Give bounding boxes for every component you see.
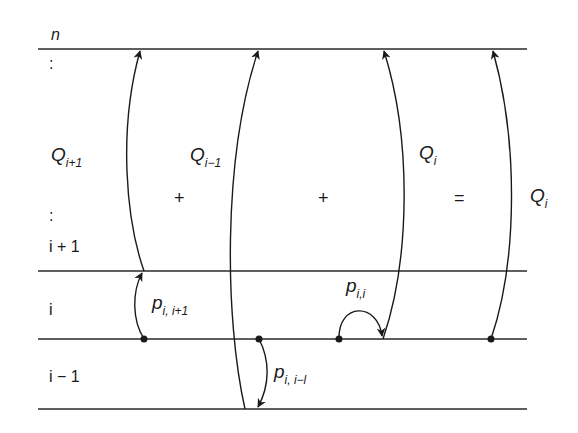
term-subscript: i−1 [205, 156, 221, 170]
level-label-i-minus-1: i − 1 [49, 369, 80, 385]
equals-operator: = [454, 189, 465, 207]
state-dot [488, 336, 495, 343]
prob-base: p [346, 275, 357, 296]
level-label-i: i [49, 302, 53, 318]
prob-subscript: i, i−l [285, 373, 307, 387]
ellipsis-top: : [49, 57, 53, 71]
state-dot [141, 336, 148, 343]
p-i-i-plus-1-arrow [135, 273, 144, 339]
term-base: Q [530, 185, 545, 206]
state-dot [256, 336, 263, 343]
level-label-i-plus-1: i + 1 [49, 239, 80, 255]
plus-operator-1: + [174, 189, 185, 207]
prob-base: p [152, 292, 163, 313]
q-i-plus-1-arrow [127, 51, 144, 271]
prob-subscript: i,i [357, 287, 366, 301]
label-p-i-i: pi,i [346, 276, 365, 295]
term-subscript: i+1 [66, 156, 82, 170]
label-p-i-i-plus-1: pi, i+1 [152, 293, 188, 312]
term-q-i-result: Qi [530, 186, 547, 205]
q-i-arrow [383, 51, 404, 339]
level-label-n: n [51, 27, 60, 43]
q-i-result-arrow [491, 51, 512, 339]
term-base: Q [419, 142, 434, 163]
label-p-i-i-minus-1: pi, i−l [274, 362, 306, 381]
prob-subscript: i, i+1 [163, 304, 189, 318]
term-q-i-minus-1: Qi−1 [190, 145, 221, 164]
term-base: Q [190, 144, 205, 165]
p-i-i-minus-1-arrow [258, 339, 267, 407]
term-q-i-plus-1: Qi+1 [51, 145, 82, 164]
state-dot [336, 336, 343, 343]
prob-base: p [274, 361, 285, 382]
term-q-i: Qi [419, 143, 436, 162]
q-i-minus-1-arrow [230, 51, 258, 409]
ellipsis-mid: : [49, 209, 53, 223]
p-i-i-arrow [339, 311, 382, 339]
plus-operator-2: + [318, 189, 329, 207]
term-base: Q [51, 144, 66, 165]
